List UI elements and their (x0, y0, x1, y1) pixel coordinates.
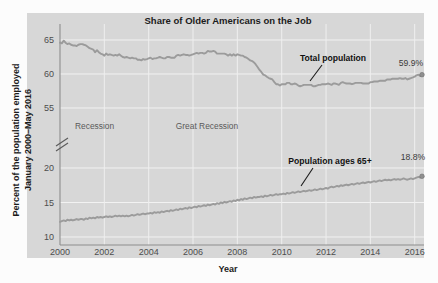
end-label-total-population: 59.9% (399, 58, 424, 68)
series-endpoint-population-65-plus (420, 174, 425, 179)
y-tick-label-10: 10 (44, 232, 54, 242)
chart-title: Share of Older Americans on the Job (145, 15, 312, 26)
series-endpoint-total-population (420, 72, 425, 77)
leader-line-population-65-plus (301, 168, 313, 186)
y-axis-title-line2: January 2000–May 2016 (23, 89, 33, 191)
x-tick-label-2008: 2008 (227, 247, 247, 257)
x-tick-label-2016: 2016 (405, 247, 425, 257)
y-tick-label-15: 15 (44, 198, 54, 208)
x-tick-label-2002: 2002 (94, 247, 114, 257)
series-line-total-population (60, 41, 422, 87)
x-axis-title: Year (218, 264, 238, 274)
annotation-population-65-plus: Population ages 65+ (288, 156, 371, 166)
chart-canvas: 6560552015102000200220042006200820102012… (0, 0, 438, 283)
end-label-population-65-plus: 18.8% (401, 152, 426, 162)
x-tick-label-2000: 2000 (50, 247, 70, 257)
annotation-great-recession: Great Recession (176, 121, 239, 131)
x-tick-label-2010: 2010 (272, 247, 292, 257)
series-line-population-65-plus (60, 176, 422, 222)
x-tick-label-2014: 2014 (360, 247, 380, 257)
y-axis-title-line1: Percent of the population employed (11, 63, 21, 216)
annotation-total-population: Total population (300, 53, 366, 63)
y-tick-label-60: 60 (44, 69, 54, 79)
y-tick-label-55: 55 (44, 103, 54, 113)
annotation-recession: Recession (75, 121, 114, 131)
chart-figure: 6560552015102000200220042006200820102012… (0, 0, 438, 283)
x-tick-label-2012: 2012 (316, 247, 336, 257)
x-tick-label-2006: 2006 (183, 247, 203, 257)
leader-line-total-population (310, 65, 322, 81)
y-tick-label-65: 65 (44, 35, 54, 45)
y-tick-label-20: 20 (44, 163, 54, 173)
x-tick-label-2004: 2004 (139, 247, 159, 257)
